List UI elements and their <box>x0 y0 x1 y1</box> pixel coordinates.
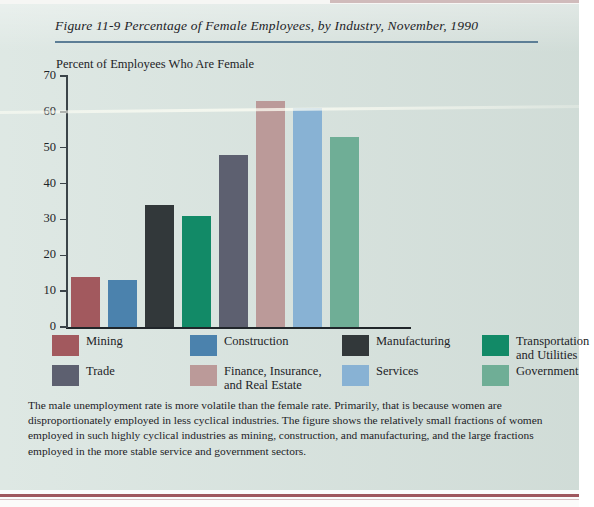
legend-swatch-icon <box>342 365 369 386</box>
y-axis-tick-label: 30 <box>30 211 56 226</box>
figure-caption: The male unemployment rate is more volat… <box>28 398 548 459</box>
page-bottom-rule-secondary <box>0 499 579 500</box>
legend-label: Construction <box>224 334 289 349</box>
page-bottom-rule <box>0 494 579 497</box>
bar-government <box>330 137 359 327</box>
bar-finance-insurance-and-real-estate <box>256 101 285 327</box>
y-axis-title: Percent of Employees Who Are Female <box>56 57 254 72</box>
legend-swatch-icon <box>190 365 217 386</box>
legend-item: Manufacturing <box>342 334 482 362</box>
y-axis-tick-label: 0 <box>30 319 56 334</box>
legend-label: Manufacturing <box>376 334 450 349</box>
legend-swatch-icon <box>342 335 369 356</box>
legend-swatch-icon <box>52 335 79 356</box>
chart-legend: MiningConstructionManufacturingTransport… <box>52 334 562 392</box>
bar-transportation-and-utilities <box>182 216 211 327</box>
legend-label: Mining <box>86 334 123 349</box>
legend-item: Services <box>342 364 482 392</box>
y-axis-tick-label: 50 <box>30 140 56 155</box>
legend-item: Mining <box>52 334 190 362</box>
bars-group <box>66 76 411 327</box>
legend-item: Government <box>482 364 594 392</box>
bar-construction <box>108 280 137 327</box>
legend-label: Finance, Insurance,and Real Estate <box>224 364 322 392</box>
bar-services <box>293 108 322 327</box>
legend-item: Transportationand Utilities <box>482 334 594 362</box>
bar-manufacturing <box>145 205 174 327</box>
legend-label: Trade <box>86 364 115 379</box>
y-axis-tick-label: 20 <box>30 247 56 262</box>
y-axis-tick-label: 70 <box>30 68 56 83</box>
legend-label: Transportationand Utilities <box>516 334 589 362</box>
legend-swatch-icon <box>482 335 509 356</box>
legend-label: Government <box>516 364 578 379</box>
legend-item: Finance, Insurance,and Real Estate <box>190 364 342 392</box>
legend-item: Construction <box>190 334 342 362</box>
y-axis-tick-label: 10 <box>30 283 56 298</box>
legend-swatch-icon <box>52 365 79 386</box>
y-axis-tick-label: 60 <box>30 104 56 119</box>
legend-label: Services <box>376 364 418 379</box>
bar-trade <box>219 155 248 327</box>
bar-mining <box>71 277 100 327</box>
legend-item: Trade <box>52 364 190 392</box>
legend-swatch-icon <box>190 335 217 356</box>
x-axis-line <box>66 327 411 329</box>
legend-swatch-icon <box>482 365 509 386</box>
y-axis-tick-label: 40 <box>30 176 56 191</box>
